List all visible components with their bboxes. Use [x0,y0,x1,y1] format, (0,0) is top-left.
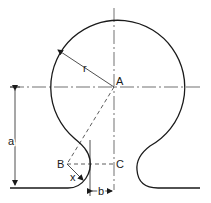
diagram-canvas: r A B C x a b [0,0,211,203]
label-a-dim: a [8,135,15,147]
label-x: x [70,171,76,183]
label-c-point: C [116,158,124,170]
label-b-point: B [57,158,64,170]
label-a-point: A [116,75,124,87]
label-r: r [83,62,87,74]
label-b-dim: b [98,185,104,197]
line-a-b [67,87,114,164]
head-outline [10,20,200,188]
